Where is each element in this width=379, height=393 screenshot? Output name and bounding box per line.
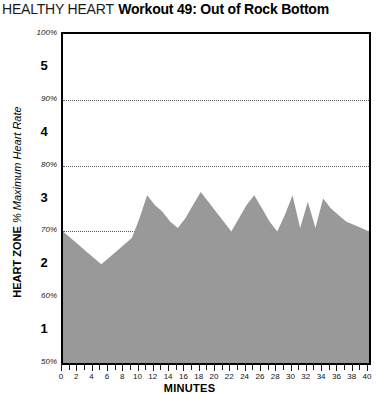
zone-number-5: 5 (31, 57, 57, 72)
x-tick-6 (107, 363, 108, 371)
zone-number-3: 3 (31, 189, 57, 204)
x-tick-label-30: 30 (286, 372, 295, 381)
x-tick-38 (352, 363, 353, 371)
y-tick-label-50: 50% (1, 357, 57, 366)
x-tick-20 (214, 363, 215, 371)
x-tick-18 (199, 363, 200, 371)
x-tick-7 (115, 363, 116, 370)
x-tick-13 (160, 363, 161, 370)
x-tick-24 (245, 363, 246, 371)
zone-number-1: 1 (31, 321, 57, 336)
x-tick-17 (191, 363, 192, 370)
x-tick-27 (268, 363, 269, 370)
x-tick-30 (291, 363, 292, 371)
zone-number-2: 2 (31, 255, 57, 270)
x-tick-31 (298, 363, 299, 370)
x-tick-26 (260, 363, 261, 371)
chart-page: HEALTHY HEART Workout 49: Out of Rock Bo… (0, 0, 379, 393)
x-tick-2 (76, 363, 77, 371)
x-tick-22 (229, 363, 230, 371)
x-tick-label-32: 32 (301, 372, 310, 381)
x-tick-12 (153, 363, 154, 371)
y-tick-label-90: 90% (1, 93, 57, 102)
x-tick-21 (222, 363, 223, 370)
x-tick-37 (344, 363, 345, 370)
x-tick-32 (306, 363, 307, 371)
x-tick-11 (145, 363, 146, 370)
x-tick-40 (367, 363, 368, 371)
x-tick-25 (252, 363, 253, 370)
x-tick-8 (122, 363, 123, 371)
x-tick-label-2: 2 (74, 372, 78, 381)
x-axis-title: MINUTES (0, 382, 379, 393)
x-tick-14 (168, 363, 169, 371)
x-tick-39 (359, 363, 360, 370)
x-tick-3 (84, 363, 85, 370)
x-tick-label-18: 18 (194, 372, 203, 381)
x-tick-label-14: 14 (164, 372, 173, 381)
x-tick-0 (61, 363, 62, 371)
plot-area (61, 32, 371, 365)
x-tick-4 (92, 363, 93, 371)
y-tick-label-70: 70% (1, 225, 57, 234)
heart-rate-area-chart (63, 34, 369, 363)
x-tick-15 (176, 363, 177, 370)
x-tick-10 (138, 363, 139, 371)
heart-rate-area-fill (63, 192, 369, 363)
x-tick-label-12: 12 (148, 372, 157, 381)
y-tick-label-100: 100% (1, 28, 57, 37)
x-tick-5 (99, 363, 100, 370)
x-tick-label-26: 26 (255, 372, 264, 381)
x-tick-label-24: 24 (240, 372, 249, 381)
y-axis-labels: 50%60%70%80%90%100%12345 (0, 0, 57, 393)
x-tick-23 (237, 363, 238, 370)
x-tick-label-20: 20 (210, 372, 219, 381)
x-tick-label-22: 22 (225, 372, 234, 381)
x-tick-label-8: 8 (120, 372, 124, 381)
y-tick-label-80: 80% (1, 159, 57, 168)
x-tick-label-6: 6 (105, 372, 109, 381)
x-tick-34 (321, 363, 322, 371)
x-tick-label-4: 4 (89, 372, 93, 381)
x-tick-label-40: 40 (363, 372, 372, 381)
plot-inner (63, 34, 369, 363)
x-tick-35 (329, 363, 330, 370)
x-tick-label-38: 38 (347, 372, 356, 381)
x-tick-29 (283, 363, 284, 370)
x-tick-28 (275, 363, 276, 371)
x-tick-label-0: 0 (59, 372, 63, 381)
zone-number-4: 4 (31, 123, 57, 138)
x-tick-36 (336, 363, 337, 371)
x-axis-ticks (61, 363, 371, 372)
x-tick-16 (183, 363, 184, 371)
x-tick-19 (206, 363, 207, 370)
x-tick-label-28: 28 (271, 372, 280, 381)
y-tick-label-60: 60% (1, 291, 57, 300)
x-tick-label-10: 10 (133, 372, 142, 381)
x-tick-label-16: 16 (179, 372, 188, 381)
x-tick-33 (313, 363, 314, 370)
x-tick-label-34: 34 (317, 372, 326, 381)
x-tick-9 (130, 363, 131, 370)
title-workout: Workout 49: Out of Rock Bottom (118, 1, 329, 17)
x-tick-label-36: 36 (332, 372, 341, 381)
x-tick-1 (69, 363, 70, 370)
